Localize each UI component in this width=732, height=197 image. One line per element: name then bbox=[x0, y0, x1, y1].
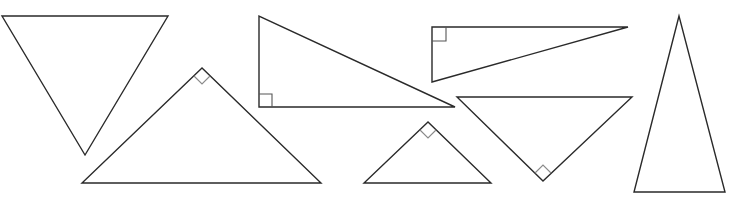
right-angle-mark-3 bbox=[259, 94, 272, 107]
triangle-2 bbox=[82, 68, 321, 183]
triangle-1 bbox=[2, 16, 168, 155]
right-angle-mark-2 bbox=[194, 76, 210, 84]
triangle-6 bbox=[457, 97, 632, 181]
triangle-4 bbox=[432, 27, 628, 82]
right-angle-mark-6 bbox=[535, 165, 551, 173]
triangles-diagram bbox=[0, 0, 732, 197]
right-angle-mark-5 bbox=[420, 130, 436, 138]
right-angle-mark-4 bbox=[432, 27, 446, 41]
triangle-3 bbox=[259, 16, 455, 107]
triangle-5 bbox=[364, 122, 491, 183]
triangle-7 bbox=[634, 16, 725, 192]
